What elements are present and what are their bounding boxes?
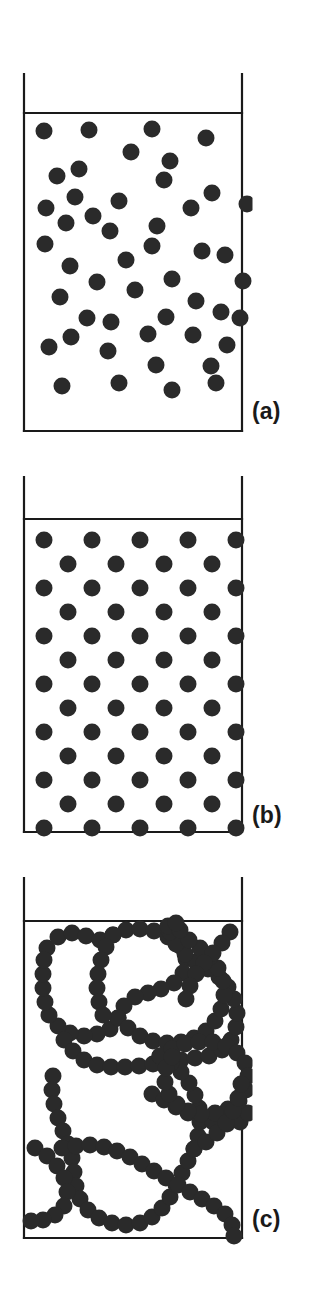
particle: [156, 652, 173, 669]
particle: [180, 820, 197, 837]
particle: [239, 196, 256, 213]
particle: [36, 123, 53, 140]
particle: [36, 580, 53, 597]
particle: [194, 243, 211, 260]
particle: [180, 580, 197, 597]
particle: [132, 532, 149, 549]
particle: [81, 122, 98, 139]
particle: [228, 676, 245, 693]
states-of-matter-figure: (a) (b) (c): [0, 0, 311, 1302]
particle: [217, 247, 234, 264]
particle: [180, 628, 197, 645]
particle: [180, 724, 197, 741]
particle: [132, 772, 149, 789]
particle: [108, 700, 125, 717]
panel-a-group: [24, 74, 256, 431]
particle: [148, 357, 165, 374]
chain-bead: [226, 1228, 243, 1245]
panel-c-label: (c): [252, 1208, 281, 1231]
chain-bead: [230, 1090, 247, 1107]
particle: [71, 161, 88, 178]
particle: [60, 796, 77, 813]
particle: [84, 580, 101, 597]
particle: [156, 556, 173, 573]
particle: [62, 258, 79, 275]
particles-b: [36, 532, 245, 837]
chain-bead: [229, 1005, 246, 1022]
particle: [149, 218, 166, 235]
particle: [111, 193, 128, 210]
particle: [60, 700, 77, 717]
particle: [183, 200, 200, 217]
particle: [208, 375, 225, 392]
particle: [156, 172, 173, 189]
particle: [235, 273, 252, 290]
particles-a: [36, 121, 256, 399]
panel-a-label: (a): [252, 400, 281, 423]
particle: [213, 304, 230, 321]
particle: [132, 580, 149, 597]
particle: [58, 215, 75, 232]
chain-bead: [178, 991, 195, 1008]
particle: [60, 748, 77, 765]
particle: [84, 820, 101, 837]
particle: [198, 130, 215, 147]
particle: [67, 189, 84, 206]
particle: [132, 676, 149, 693]
particle: [232, 310, 249, 327]
particle: [204, 652, 221, 669]
particle: [41, 339, 58, 356]
particle: [84, 772, 101, 789]
particle: [204, 604, 221, 621]
particle: [158, 309, 175, 326]
particle: [54, 378, 71, 395]
particle: [108, 796, 125, 813]
particle: [162, 153, 179, 170]
particle: [144, 121, 161, 138]
particle: [36, 676, 53, 693]
chain-bead: [164, 1049, 181, 1066]
particle: [100, 343, 117, 360]
particle: [156, 700, 173, 717]
particle: [103, 314, 120, 331]
particle: [63, 329, 80, 346]
particle: [228, 628, 245, 645]
particle: [111, 375, 128, 392]
particle: [132, 724, 149, 741]
particle: [36, 820, 53, 837]
chain-bead: [59, 1184, 76, 1201]
particle: [84, 532, 101, 549]
particle: [180, 676, 197, 693]
chain-bead: [93, 952, 110, 969]
particle: [84, 724, 101, 741]
particle: [49, 168, 66, 185]
particle: [204, 796, 221, 813]
particle: [36, 772, 53, 789]
particle: [127, 282, 144, 299]
particle: [60, 556, 77, 573]
particle: [204, 556, 221, 573]
particle: [37, 236, 54, 253]
panel-c-group: [23, 878, 257, 1245]
particle: [140, 326, 157, 343]
particle: [108, 604, 125, 621]
particle: [156, 604, 173, 621]
particle: [132, 820, 149, 837]
particle: [228, 580, 245, 597]
particle: [89, 274, 106, 291]
particle: [180, 772, 197, 789]
chain-bead: [36, 952, 53, 969]
particle: [228, 820, 245, 837]
panel-a-drawing: [0, 0, 311, 1302]
particle: [84, 676, 101, 693]
particle: [52, 289, 69, 306]
particle: [228, 532, 245, 549]
chain-bead: [95, 1007, 112, 1024]
particle: [228, 724, 245, 741]
chain-bead: [56, 1170, 73, 1187]
particle: [108, 556, 125, 573]
chain-bead: [64, 925, 81, 942]
particle: [164, 382, 181, 399]
particle: [79, 310, 96, 327]
particle: [219, 337, 236, 354]
